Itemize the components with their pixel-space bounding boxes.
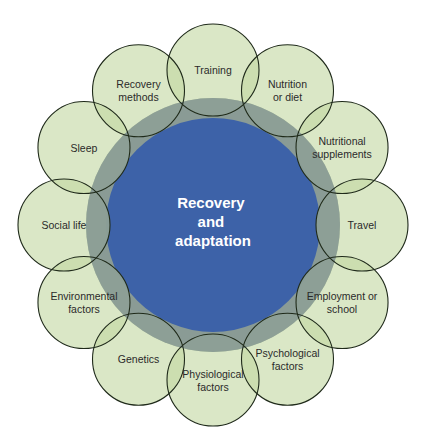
factor-label-recovery-methods: Recoverymethods	[116, 78, 161, 103]
factor-label-line: Psychological	[255, 347, 319, 359]
factor-label-sleep: Sleep	[71, 142, 98, 154]
factor-label-line: or diet	[273, 91, 302, 103]
factor-label-line: Sleep	[71, 142, 98, 154]
center-title-line-3: adaptation	[175, 232, 251, 249]
factor-label-line: Nutrition	[268, 78, 307, 90]
factor-label-line: factors	[197, 381, 229, 393]
factor-label-training: Training	[194, 64, 232, 76]
factor-label-line: factors	[68, 303, 100, 315]
factor-label-line: Genetics	[118, 353, 159, 365]
center-title-line-2: and	[198, 213, 225, 230]
factor-label-nutritional-supplements: Nutritionalsupplements	[312, 135, 372, 160]
factor-label-social-life: Social life	[42, 219, 87, 231]
recovery-diagram: TrainingNutritionor dietNutritionalsuppl…	[0, 0, 426, 441]
factor-label-line: factors	[272, 360, 304, 372]
factor-label-line: Social life	[42, 219, 87, 231]
factor-label-line: supplements	[312, 148, 372, 160]
center-title-line-1: Recovery	[177, 194, 245, 211]
factor-label-line: methods	[118, 91, 158, 103]
factor-label-nutrition-or-diet: Nutritionor diet	[268, 78, 307, 103]
factor-label-genetics: Genetics	[118, 353, 159, 365]
factor-label-line: Environmental	[50, 290, 117, 302]
factor-label-travel: Travel	[348, 219, 377, 231]
factor-label-line: Recovery	[116, 78, 161, 90]
factor-label-line: Physiological	[182, 368, 243, 380]
factor-label-line: Nutritional	[318, 135, 365, 147]
factor-label-line: Training	[194, 64, 232, 76]
factor-label-line: Travel	[348, 219, 377, 231]
factor-label-line: school	[327, 303, 357, 315]
factor-label-line: Employment or	[307, 290, 378, 302]
